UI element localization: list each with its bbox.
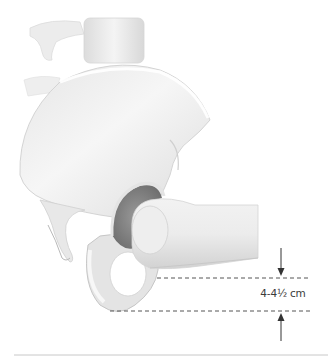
ischium [40,200,85,262]
pelvis-illustration [0,0,331,360]
down-arrow-icon [278,248,285,276]
femur [132,199,258,269]
up-arrow-icon [278,313,285,341]
anatomy-figure: 4-4½ cm [0,0,331,360]
measurement-label: 4-4½ cm [250,287,316,299]
